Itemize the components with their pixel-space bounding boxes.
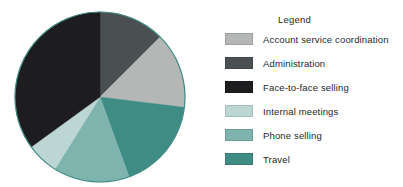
pie-chart-plot-area bbox=[14, 11, 186, 183]
legend-item[interactable]: Travel bbox=[225, 151, 403, 167]
pie-chart-figure: Legend Account service coordinationAdmin… bbox=[0, 0, 403, 187]
legend-color-swatch bbox=[225, 129, 253, 141]
legend-color-swatch bbox=[225, 105, 253, 117]
legend-item[interactable]: Administration bbox=[225, 55, 403, 71]
legend-item-label: Travel bbox=[263, 154, 290, 165]
legend-item-label: Face-to-face selling bbox=[263, 82, 349, 93]
pie-chart-svg bbox=[14, 11, 186, 183]
legend-title: Legend bbox=[278, 14, 403, 25]
legend-color-swatch bbox=[225, 153, 253, 165]
legend-item-label: Phone selling bbox=[263, 130, 322, 141]
legend-color-swatch bbox=[225, 57, 253, 69]
legend-item-label: Internal meetings bbox=[263, 106, 338, 117]
legend-item[interactable]: Internal meetings bbox=[225, 103, 403, 119]
legend-item-list: Account service coordinationAdministrati… bbox=[225, 31, 403, 167]
legend-color-swatch bbox=[225, 81, 253, 93]
legend-item-label: Account service coordination bbox=[263, 34, 389, 45]
legend-item[interactable]: Face-to-face selling bbox=[225, 79, 403, 95]
legend-item[interactable]: Phone selling bbox=[225, 127, 403, 143]
legend-color-swatch bbox=[225, 33, 253, 45]
legend-item-label: Administration bbox=[263, 58, 325, 69]
legend-item[interactable]: Account service coordination bbox=[225, 31, 403, 47]
pie-slice-group bbox=[15, 12, 185, 182]
legend: Legend Account service coordinationAdmin… bbox=[225, 14, 403, 175]
